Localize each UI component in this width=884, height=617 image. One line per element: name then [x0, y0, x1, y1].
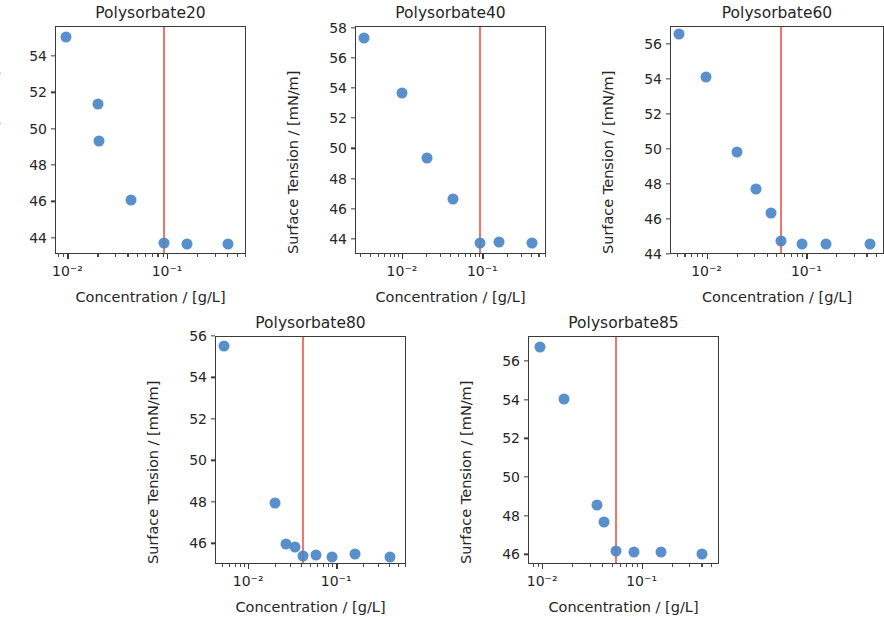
x-axis-label: Concentration / [g/L] [498, 599, 749, 615]
data-point [655, 547, 666, 558]
x-tick-minor [637, 564, 638, 567]
x-tick-label: 10⁻² [527, 573, 558, 589]
x-tick-minor [533, 564, 534, 567]
y-tick-mark [524, 438, 528, 439]
x-tick-major [642, 564, 643, 569]
y-tick-label: 48 [480, 508, 520, 524]
y-tick-label: 50 [480, 469, 520, 485]
x-tick-minor [538, 564, 539, 567]
x-tick-minor [590, 564, 591, 567]
data-point [559, 393, 570, 404]
subplot-polysorbate85: Polysorbate8546485052545610⁻²10⁻¹Concent… [0, 0, 884, 617]
x-tick-minor [689, 564, 690, 567]
subplot-title: Polysorbate85 [528, 314, 719, 332]
y-tick-mark [524, 554, 528, 555]
data-point [611, 546, 622, 557]
y-tick-label: 56 [480, 353, 520, 369]
y-tick-mark [524, 360, 528, 361]
data-point [629, 547, 640, 558]
x-tick-minor [701, 564, 702, 567]
figure-canvas: Polysorbate2044464850525410⁻²10⁻¹Concent… [0, 0, 884, 617]
x-tick-minor [602, 564, 603, 567]
cmc-vertical-line [615, 337, 617, 563]
x-tick-minor [711, 564, 712, 567]
data-point [598, 517, 609, 528]
x-tick-minor [612, 564, 613, 567]
x-tick-minor [672, 564, 673, 567]
y-tick-mark [524, 515, 528, 516]
x-tick-minor [626, 564, 627, 567]
x-tick-minor [620, 564, 621, 567]
y-tick-mark [524, 476, 528, 477]
x-tick-label: 10⁻¹ [626, 573, 657, 589]
y-axis-label: Surface Tension / [mN/m] [458, 381, 474, 564]
y-tick-label: 54 [480, 392, 520, 408]
axes-frame [528, 336, 719, 564]
y-tick-mark [524, 399, 528, 400]
data-point [697, 549, 708, 560]
y-tick-label: 52 [480, 430, 520, 446]
x-tick-minor [572, 564, 573, 567]
data-point [535, 341, 546, 352]
x-tick-minor [632, 564, 633, 567]
y-tick-label: 46 [480, 546, 520, 562]
data-point [591, 500, 602, 511]
x-tick-major [542, 564, 543, 569]
